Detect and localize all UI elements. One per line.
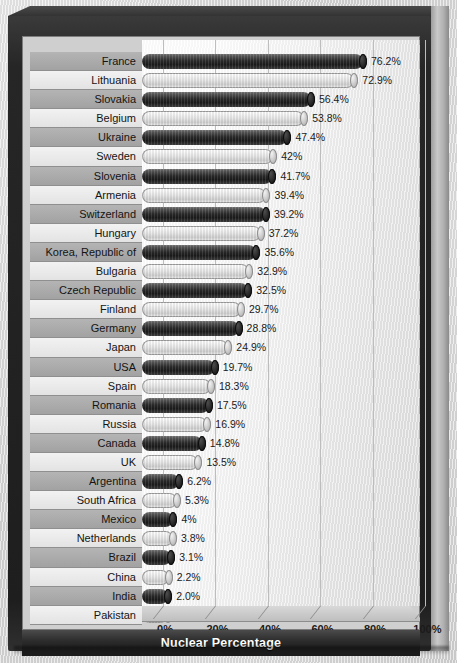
bar[interactable] <box>142 245 256 260</box>
bar-row[interactable]: 35.6% <box>142 243 420 262</box>
bar-texture <box>142 226 261 241</box>
bar-row[interactable]: 17.5% <box>142 396 420 415</box>
bar[interactable] <box>142 512 173 527</box>
category-label: China <box>30 568 142 587</box>
bar[interactable] <box>142 398 209 413</box>
bar[interactable] <box>142 531 173 546</box>
bar-texture <box>142 111 304 126</box>
bar[interactable] <box>142 340 228 355</box>
bar-end-cap <box>262 207 270 222</box>
bar[interactable] <box>142 264 249 279</box>
bar[interactable] <box>142 493 177 508</box>
bar-row[interactable]: 16.9% <box>142 415 420 434</box>
bar-texture <box>142 283 248 298</box>
bar[interactable] <box>142 570 169 585</box>
bar-end-cap <box>283 130 291 145</box>
bar-value-label: 17.5% <box>217 398 247 413</box>
bar-row[interactable]: 13.5% <box>142 453 420 472</box>
bar-row[interactable]: 39.4% <box>142 186 420 205</box>
bar-value-label: 76.2% <box>371 54 401 69</box>
bar[interactable] <box>142 207 266 222</box>
bar-row[interactable]: 72.9% <box>142 71 420 90</box>
bar[interactable] <box>142 111 304 126</box>
bar[interactable] <box>142 474 179 489</box>
bar[interactable] <box>142 550 171 565</box>
bar[interactable] <box>142 73 354 88</box>
bar[interactable] <box>142 130 287 145</box>
bar-end-cap <box>269 149 277 164</box>
bar[interactable] <box>142 92 311 107</box>
bar-row[interactable]: 4% <box>142 510 420 529</box>
bar-texture <box>142 302 241 317</box>
bar[interactable] <box>142 321 239 336</box>
bar-row[interactable]: 32.5% <box>142 281 420 300</box>
bar-end-cap <box>207 379 215 394</box>
bar[interactable] <box>142 54 363 69</box>
bar-end-cap <box>359 54 367 69</box>
bar-end-cap <box>194 455 202 470</box>
bar-value-label: 3.8% <box>181 531 205 546</box>
category-label: USA <box>30 358 142 377</box>
bar-value-label: 18.3% <box>219 379 249 394</box>
bar-texture <box>142 73 354 88</box>
bar-row[interactable]: 6.2% <box>142 472 420 491</box>
bar-texture <box>142 455 198 470</box>
category-label: Netherlands <box>30 529 142 548</box>
bar-row[interactable]: 32.9% <box>142 262 420 281</box>
bar-end-cap <box>224 340 232 355</box>
bar-end-cap <box>169 531 177 546</box>
category-label: Czech Republic <box>30 281 142 300</box>
bar-value-label: 2.0% <box>176 589 200 604</box>
chart-frame: FranceLithuaniaSlovakiaBelgiumUkraineSwe… <box>8 6 449 651</box>
bar-row[interactable]: 3.1% <box>142 548 420 567</box>
bar-value-label: 13.5% <box>206 455 236 470</box>
bar-row[interactable]: 14.8% <box>142 434 420 453</box>
bar-row[interactable]: 3.8% <box>142 529 420 548</box>
bar-end-cap <box>211 360 219 375</box>
bar[interactable] <box>142 417 207 432</box>
bar-value-label: 39.2% <box>274 207 304 222</box>
bar[interactable] <box>142 149 273 164</box>
bar-row[interactable]: 2.2% <box>142 568 420 587</box>
bar-row[interactable]: 19.7% <box>142 358 420 377</box>
bar[interactable] <box>142 436 202 451</box>
bar-end-cap <box>167 550 175 565</box>
bar-end-cap <box>245 264 253 279</box>
bar-row[interactable]: 24.9% <box>142 338 420 357</box>
bar[interactable] <box>142 169 272 184</box>
bar[interactable] <box>142 188 266 203</box>
bar[interactable] <box>142 302 241 317</box>
bar-value-label: 6.2% <box>187 474 211 489</box>
bar[interactable] <box>142 455 198 470</box>
bar-row[interactable]: 2.0% <box>142 587 420 606</box>
bar-row[interactable]: 47.4% <box>142 128 420 147</box>
category-label: Russia <box>30 415 142 434</box>
bar-row[interactable]: 56.4% <box>142 90 420 109</box>
bar-value-label: 5.3% <box>185 493 209 508</box>
bar[interactable] <box>142 283 248 298</box>
bar-texture <box>142 493 177 508</box>
bar-row[interactable]: 28.8% <box>142 319 420 338</box>
bar-row[interactable]: 5.3% <box>142 491 420 510</box>
bar-row[interactable]: 76.2% <box>142 52 420 71</box>
bar-value-label: 72.9% <box>362 73 392 88</box>
bar[interactable] <box>142 226 261 241</box>
category-label: Ukraine <box>30 128 142 147</box>
bar-end-cap <box>252 245 260 260</box>
bar-row[interactable]: 29.7% <box>142 300 420 319</box>
bar-row[interactable]: 39.2% <box>142 205 420 224</box>
bar[interactable] <box>142 589 168 604</box>
bar-value-label: 53.8% <box>312 111 342 126</box>
category-label: Lithuania <box>30 71 142 90</box>
bar-row[interactable]: 42% <box>142 147 420 166</box>
bar-row[interactable]: 41.7% <box>142 167 420 186</box>
bar-row[interactable]: 37.2% <box>142 224 420 243</box>
category-label: Pakistan <box>30 606 142 625</box>
bar[interactable] <box>142 379 211 394</box>
bar-end-cap <box>169 512 177 527</box>
bar-row[interactable]: 53.8% <box>142 109 420 128</box>
bar[interactable] <box>142 360 215 375</box>
bar-end-cap <box>205 398 213 413</box>
bar-end-cap <box>203 417 211 432</box>
bar-row[interactable]: 18.3% <box>142 377 420 396</box>
